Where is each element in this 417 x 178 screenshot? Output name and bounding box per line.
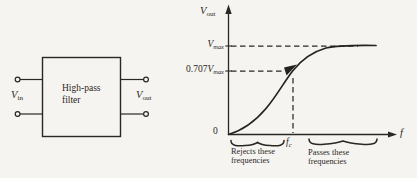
v-in-label: Vin bbox=[11, 90, 23, 101]
v707-tick-label: 0.707Vmax bbox=[178, 65, 224, 75]
graph-y-axis-label: Vout bbox=[200, 6, 216, 17]
output-terminal-top bbox=[144, 77, 149, 82]
response-curve bbox=[229, 45, 377, 134]
rejects-note: Rejects these frequencies bbox=[231, 147, 275, 166]
filter-box-label: High-pass filter bbox=[62, 83, 101, 106]
input-terminal-top bbox=[15, 77, 20, 82]
graph-x-axis-label: f bbox=[400, 128, 403, 139]
x-axis-arrowhead-icon bbox=[388, 131, 397, 137]
v-out-label: Vout bbox=[136, 90, 152, 101]
passes-brace bbox=[309, 139, 377, 144]
textbook-figure-high-pass-filter: Vin Vout High-pass filter Vout Vmax 0.70… bbox=[0, 0, 417, 178]
vmax-tick-label: Vmax bbox=[194, 40, 224, 50]
response-graph bbox=[225, 5, 397, 146]
input-terminal-bottom bbox=[15, 112, 20, 117]
cutoff-frequency-label: fc bbox=[286, 138, 292, 148]
passes-note: Passes these frequencies bbox=[308, 148, 349, 167]
output-terminal-bottom bbox=[144, 112, 149, 117]
y-axis-arrowhead-icon bbox=[225, 5, 231, 15]
rejects-brace bbox=[231, 141, 284, 146]
origin-label: 0 bbox=[213, 127, 218, 137]
